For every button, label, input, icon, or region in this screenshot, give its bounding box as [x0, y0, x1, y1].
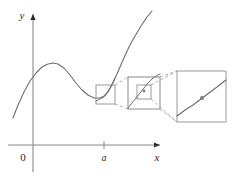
y-axis-label: y [19, 9, 25, 21]
x-axis-arrowhead [154, 142, 160, 147]
tangency-point-marker [200, 96, 204, 100]
magnifier-connector-3 [160, 71, 177, 77]
local-linearity-figure: y x 0 a [0, 0, 236, 181]
figure-canvas: y x 0 a [0, 0, 236, 181]
tangency-point-mid-marker [143, 90, 146, 93]
magnifier-boxes [96, 71, 226, 122]
x-tick-label-a: a [102, 152, 107, 163]
function-curve [13, 11, 152, 118]
magnifier-connector-1 [115, 77, 128, 85]
magnifier-connectors [115, 71, 177, 122]
magnifier-connector-4 [160, 109, 177, 122]
y-axis-arrowhead [30, 14, 35, 20]
origin-label: 0 [20, 151, 26, 163]
magnifier-connector-6 [151, 99, 177, 122]
x-axis-label: x [154, 151, 160, 163]
magnifier-connector-2 [115, 104, 128, 109]
magnifier-connector-5 [151, 71, 177, 85]
magnifier-box-level-2-outer [128, 77, 160, 109]
